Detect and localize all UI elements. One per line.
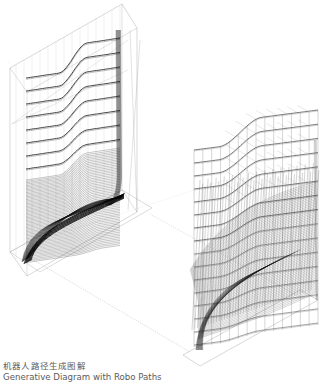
svg-text:·: · (8, 61, 9, 65)
svg-text:·: · (36, 269, 37, 273)
caption-title-zh: 机器人路径生成图解 (3, 361, 162, 372)
left-dense-path-figure: ····· (8, 4, 152, 276)
generative-diagram: ····· (0, 0, 323, 389)
svg-text:·: · (27, 260, 28, 264)
right-lattice-figure (183, 105, 319, 366)
svg-text:·: · (100, 237, 101, 241)
svg-text:·: · (8, 125, 9, 129)
diagram-stage: ····· (0, 0, 323, 389)
caption: 机器人路径生成图解 Generative Diagram with Robo P… (3, 361, 162, 383)
caption-title-en: Generative Diagram with Robo Paths (3, 372, 162, 383)
